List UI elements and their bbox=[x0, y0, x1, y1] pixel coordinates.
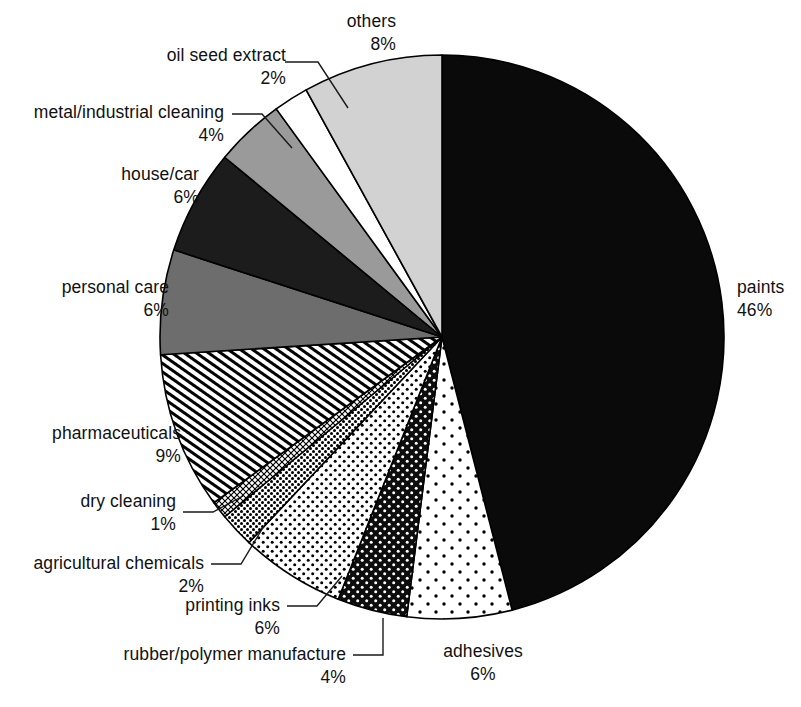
label-metal-industrial-cleaning-pct: 4% bbox=[0, 124, 224, 147]
label-paints-pct: 46% bbox=[737, 299, 801, 322]
label-paints: paints 46% bbox=[737, 276, 801, 322]
label-oil-seed-extract-name: oil seed extract bbox=[0, 44, 286, 67]
label-rubber-polymer-manufacture-pct: 4% bbox=[0, 666, 346, 689]
label-paints-name: paints bbox=[737, 276, 801, 299]
label-agricultural-chemicals: agricultural chemicals 2% bbox=[0, 552, 204, 598]
label-pharmaceuticals-pct: 9% bbox=[0, 445, 181, 468]
label-pharmaceuticals-name: pharmaceuticals bbox=[0, 422, 181, 445]
label-oil-seed-extract-pct: 2% bbox=[0, 67, 286, 90]
label-house-car: house/car 6% bbox=[0, 163, 199, 209]
pie-chart-figure: others 8% oil seed extract 2% metal/indu… bbox=[0, 0, 801, 707]
label-house-car-pct: 6% bbox=[0, 186, 199, 209]
label-pharmaceuticals: pharmaceuticals 9% bbox=[0, 422, 181, 468]
label-adhesives-name: adhesives bbox=[418, 640, 548, 663]
label-house-car-name: house/car bbox=[0, 163, 199, 186]
label-printing-inks: printing inks 6% bbox=[0, 594, 280, 640]
label-adhesives: adhesives 6% bbox=[418, 640, 548, 686]
label-personal-care-pct: 6% bbox=[0, 299, 169, 322]
label-others-name: others bbox=[0, 10, 396, 33]
label-printing-inks-name: printing inks bbox=[0, 594, 280, 617]
label-personal-care: personal care 6% bbox=[0, 276, 169, 322]
label-dry-cleaning-pct: 1% bbox=[0, 513, 176, 536]
label-rubber-polymer-manufacture-name: rubber/polymer manufacture bbox=[0, 643, 346, 666]
label-dry-cleaning-name: dry cleaning bbox=[0, 490, 176, 513]
label-oil-seed-extract: oil seed extract 2% bbox=[0, 44, 286, 90]
label-metal-industrial-cleaning-name: metal/industrial cleaning bbox=[0, 101, 224, 124]
label-personal-care-name: personal care bbox=[0, 276, 169, 299]
label-metal-industrial-cleaning: metal/industrial cleaning 4% bbox=[0, 101, 224, 147]
label-agricultural-chemicals-name: agricultural chemicals bbox=[0, 552, 204, 575]
label-rubber-polymer-manufacture: rubber/polymer manufacture 4% bbox=[0, 643, 346, 689]
label-dry-cleaning: dry cleaning 1% bbox=[0, 490, 176, 536]
label-printing-inks-pct: 6% bbox=[0, 617, 280, 640]
label-adhesives-pct: 6% bbox=[418, 663, 548, 686]
leader-line-rubber bbox=[353, 618, 383, 655]
